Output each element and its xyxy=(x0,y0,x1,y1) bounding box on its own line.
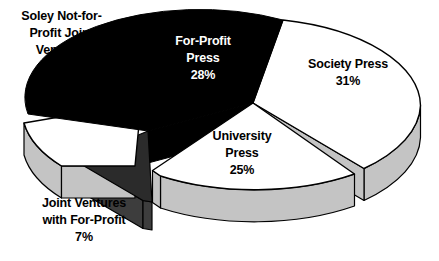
pie-chart: Society Press 31% University Press 25% F… xyxy=(0,0,439,261)
pie-chart-graphic xyxy=(0,0,439,261)
slice-side-joint-ventures-rim xyxy=(143,201,152,231)
slice-side-university-press-radial xyxy=(153,171,161,209)
